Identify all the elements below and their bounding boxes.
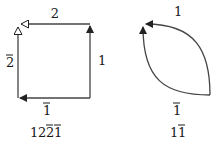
- square-loop-diagram: 2 1 2 1 1 2 2 1: [6, 6, 106, 140]
- label-bottom: 1: [173, 103, 181, 118]
- word-part: 1: [178, 125, 186, 140]
- leaf-loop-diagram: 1 1 1 1: [143, 4, 210, 140]
- word-label: 1 2 2 1: [30, 125, 62, 140]
- diagram-canvas: 2 1 2 1 1 2 2 1 1 1 1 1: [0, 0, 216, 145]
- label-right: 1: [98, 53, 106, 68]
- word-part: 1: [54, 125, 62, 140]
- edge-bottom-curve: [143, 27, 210, 95]
- label-top: 1: [174, 4, 182, 19]
- word-label: 1 1: [170, 125, 186, 140]
- label-left: 2: [6, 55, 14, 70]
- label-bottom: 1: [43, 103, 51, 118]
- edge-top-curve: [146, 24, 210, 95]
- label-top: 2: [51, 6, 59, 21]
